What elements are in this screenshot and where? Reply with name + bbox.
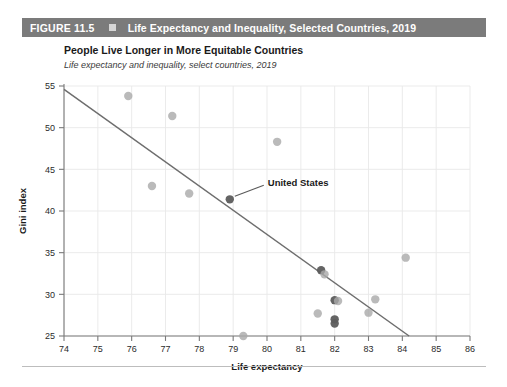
scatter-chart: 7475767778798081828384858625303540455055… [0, 0, 507, 387]
data-point [330, 319, 338, 327]
y-axis-title: Gini index [17, 187, 28, 234]
data-point [239, 332, 247, 340]
x-tick-label: 75 [93, 344, 103, 354]
data-point [273, 138, 281, 146]
annotation-label: United States [268, 177, 329, 188]
x-tick-label: 82 [330, 344, 340, 354]
square-bullet-icon [109, 24, 116, 31]
annotations: United States [235, 177, 329, 196]
data-point [402, 253, 410, 261]
data-point [330, 315, 338, 323]
y-tick-label: 25 [45, 331, 55, 341]
chart-plot-area: 7475767778798081828384858625303540455055… [0, 0, 507, 387]
x-tick-label: 79 [228, 344, 238, 354]
y-tick-label: 40 [45, 206, 55, 216]
x-tick-label: 77 [160, 344, 170, 354]
figure-title: Life Expectancy and Inequality, Selected… [128, 22, 416, 34]
annotation-leader-line [235, 185, 264, 196]
x-tick-label: 86 [465, 344, 475, 354]
trendline [64, 89, 409, 336]
x-tick-label: 80 [262, 344, 272, 354]
figure-root: FIGURE 11.5 Life Expectancy and Inequali… [0, 0, 507, 387]
x-tick-label: 76 [127, 344, 137, 354]
y-tick-label: 30 [45, 290, 55, 300]
chart-title: People Live Longer in More Equitable Cou… [64, 44, 303, 56]
data-point [317, 266, 325, 274]
data-point [320, 270, 328, 278]
y-tick-label: 35 [45, 248, 55, 258]
x-tick-label: 85 [431, 344, 441, 354]
figure-number-label: FIGURE 11.5 [30, 22, 95, 34]
axis-ticks [59, 86, 470, 341]
axes [64, 84, 470, 336]
trend-line [64, 89, 409, 336]
chart-subtitle: Life expectancy and inequality, select c… [64, 60, 276, 70]
gridlines [64, 86, 470, 336]
data-points [124, 92, 410, 340]
data-point [314, 309, 322, 317]
x-tick-label: 83 [363, 344, 373, 354]
y-tick-label: 50 [45, 123, 55, 133]
data-point [364, 308, 372, 316]
data-point [185, 189, 193, 197]
data-point [330, 296, 338, 304]
data-point [334, 297, 342, 305]
data-point [226, 195, 234, 203]
y-tick-label: 55 [45, 81, 55, 91]
data-point [124, 92, 132, 100]
figure-header-bar: FIGURE 11.5 Life Expectancy and Inequali… [22, 18, 486, 37]
x-tick-label: 81 [296, 344, 306, 354]
data-point [148, 182, 156, 190]
axis-tick-labels: 7475767778798081828384858625303540455055 [45, 81, 475, 354]
x-tick-label: 74 [59, 344, 69, 354]
data-point [168, 112, 176, 120]
footer-rule [22, 366, 486, 367]
x-tick-label: 78 [194, 344, 204, 354]
x-tick-label: 84 [397, 344, 407, 354]
axis-titles: Life expectancyGini index [17, 187, 303, 372]
data-point [371, 295, 379, 303]
y-tick-label: 45 [45, 165, 55, 175]
